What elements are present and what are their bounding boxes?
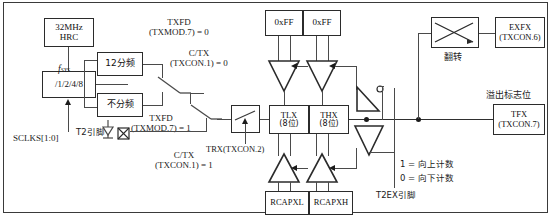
- rcapxh-label: RCAPXH: [314, 198, 348, 207]
- wire-sclks-to-prescaler: [68, 104, 69, 132]
- reload-ff-right-label: 0xFF: [312, 18, 331, 28]
- hrc-oscillator-box: 32MHz HRC: [44, 18, 94, 47]
- reload-enable-high-arrowhead-icon: [329, 63, 335, 69]
- thx-line2: (8位): [319, 120, 338, 129]
- wire-capture-enable-high: [333, 168, 357, 169]
- capture-enable-low-arrowhead-icon: [291, 165, 297, 171]
- wire-reload-enable-high: [333, 66, 357, 67]
- hrc-line2: HRC: [60, 33, 79, 43]
- tfx-flag-box: TFX (TXCON.7): [493, 104, 545, 135]
- tlx-line2: (8位): [279, 120, 298, 129]
- wire-dir-inverter-to-ctrl: [382, 86, 383, 120]
- t2ex-pin-label: T2EX引脚: [376, 191, 416, 201]
- wire-ffleft-bus-a: [278, 36, 279, 62]
- txfd-selector-switch[interactable]: [156, 74, 192, 98]
- trx-control-arrowhead-icon: [242, 118, 248, 124]
- thx-register-box: THX (8位): [309, 105, 349, 134]
- reload-enable-low-arrowhead-icon: [291, 63, 297, 69]
- ctx-one-line1: C/TX: [155, 150, 213, 160]
- wire-fsys-trunk: [96, 84, 128, 85]
- wire-dir-inverter-top: [378, 86, 384, 87]
- wire-overflow-main: [406, 119, 506, 120]
- txfd-zero-line2: (TXMOD.7) = 0: [149, 27, 209, 37]
- wire-t2ex-riser: [394, 88, 395, 188]
- toggle-cross-icon: [433, 20, 477, 45]
- wire-ffright-bus-b: [328, 36, 329, 62]
- clock-prescaler-box: /1/2/4/8: [42, 71, 96, 98]
- ctx-zero-line1: C/TX: [170, 48, 228, 58]
- ctx-one-line2: (TXCON.1) = 1: [155, 160, 213, 170]
- wire-reload-high-out: [322, 91, 323, 105]
- reload-ff-left-box: 0xFF: [265, 10, 303, 36]
- wire-div12-out: [143, 64, 163, 65]
- ctx-selector-switch[interactable]: [189, 102, 223, 124]
- div12-label: 12分频: [105, 59, 134, 69]
- fsys-label: fSYS: [58, 64, 70, 75]
- wire-fsys-to-nodiv: [84, 107, 98, 108]
- wire-txfd-out-down: [190, 93, 191, 104]
- wire-reload-low-out: [284, 91, 285, 105]
- sclks-arrowhead-icon: [65, 99, 71, 105]
- junction-dot-direction: [364, 117, 369, 122]
- overflow-flag-caption: 溢出标志位: [486, 90, 531, 100]
- txfd-zero-line1: TXFD: [149, 17, 209, 27]
- divide-by-12-box: 12分频: [97, 52, 143, 76]
- sclks-label: SCLKS[1:0]: [13, 133, 59, 143]
- t2-ground-icon: [101, 118, 115, 144]
- ctx-one-label: C/TX (TXCON.1) = 1: [155, 150, 213, 170]
- wire-ffleft-bus-b: [290, 36, 291, 62]
- wire-ctx-to-trx: [217, 119, 231, 120]
- ctx-zero-label: C/TX (TXCON.1) = 0: [170, 48, 228, 68]
- wire-nodiv-out: [143, 105, 163, 106]
- rcapxl-register-box: RCAPXL: [265, 191, 309, 215]
- toggle-caption: 翻转: [444, 52, 462, 62]
- wire-toggle-to-exfx: [479, 33, 495, 34]
- wire-toggle-in: [418, 33, 431, 34]
- wire-txfd-out: [190, 93, 204, 94]
- exfx-flag-box: EXFX (TXCON.6): [495, 17, 545, 48]
- count-up-label: 1 = 向上计数: [400, 160, 454, 170]
- capture-enable-high-arrowhead-icon: [329, 165, 335, 171]
- prescaler-label: /1/2/4/8: [55, 80, 83, 90]
- nodiv-label: 不分频: [107, 100, 134, 110]
- reload-ff-right-box: 0xFF: [303, 10, 341, 36]
- wire-thx-overflow: [349, 119, 406, 120]
- wire-t2pin-right: [130, 131, 207, 132]
- txfd-zero-label: TXFD (TXMOD.7) = 0: [149, 17, 209, 37]
- rcapxl-label: RCAPXL: [270, 198, 304, 207]
- count-down-label: 0 = 向下计数: [400, 174, 454, 184]
- wire-fsys-to-div12: [84, 60, 98, 61]
- ctx-zero-line2: (TXCON.1) = 0: [170, 58, 228, 68]
- rcapxh-register-box: RCAPXH: [309, 191, 353, 215]
- wire-dir-down-bottom: [369, 152, 395, 153]
- wire-fsys-split-vert: [84, 60, 85, 108]
- txfd-one-line1: TXFD: [131, 113, 191, 123]
- reload-ff-left-label: 0xFF: [274, 18, 293, 28]
- wire-trx-control: [245, 123, 246, 144]
- tfx-line2: (TXCON.7): [498, 120, 539, 129]
- t2-pin-icon[interactable]: [117, 126, 130, 144]
- wire-ffright-bus-a: [316, 36, 317, 62]
- fsys-sub: SYS: [61, 67, 70, 73]
- trx-label: TRX(TXCON.2): [206, 145, 264, 155]
- wire-toggle-riser: [418, 33, 419, 119]
- exfx-line2: (TXCON.6): [499, 33, 540, 42]
- block-diagram-canvas: 32MHz HRC /1/2/4/8 SCLKS[1:0] fSYS 12分频 …: [0, 0, 552, 217]
- tlx-register-box: TLX (8位): [269, 105, 309, 134]
